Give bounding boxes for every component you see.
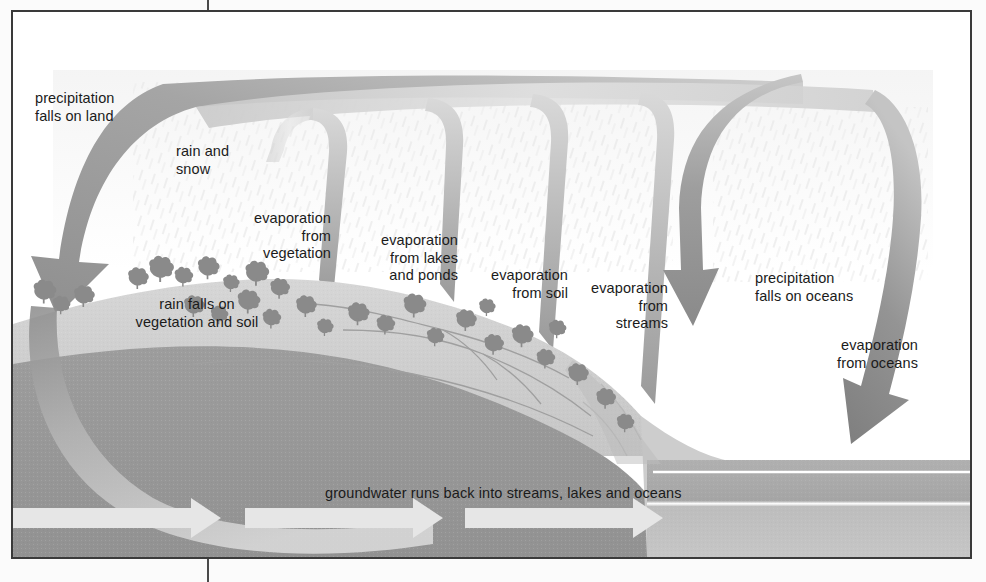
label-evaporation-from-streams: evaporation from streams: [513, 280, 668, 333]
diagram-frame: precipitation falls on land rain and sno…: [11, 10, 972, 559]
label-rain-and-snow: rain and snow: [176, 143, 229, 178]
label-precipitation-falls-on-land: precipitation falls on land: [35, 90, 115, 125]
label-rain-falls-on-vegetation-and-soil: rain falls on vegetation and soil: [107, 296, 287, 331]
label-evaporation-from-oceans: evaporation from oceans: [733, 337, 918, 372]
diagram-stage: precipitation falls on land rain and sno…: [0, 0, 986, 582]
crop-mark-bottom: [207, 559, 209, 582]
label-precipitation-falls-on-oceans: precipitation falls on oceans: [755, 270, 853, 305]
label-groundwater-runs-back: groundwater runs back into streams, lake…: [325, 485, 682, 503]
